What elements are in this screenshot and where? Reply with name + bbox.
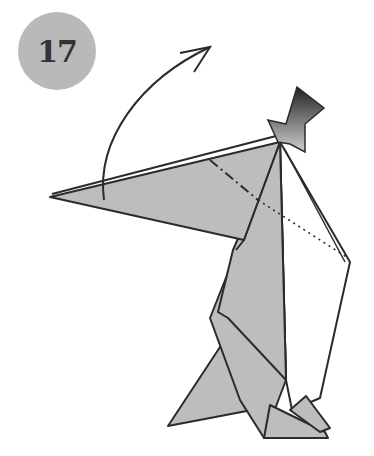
arrowhead-icon xyxy=(180,47,210,72)
body-back-white xyxy=(280,142,350,410)
head-beak xyxy=(50,142,280,240)
origami-diagram xyxy=(0,0,374,456)
